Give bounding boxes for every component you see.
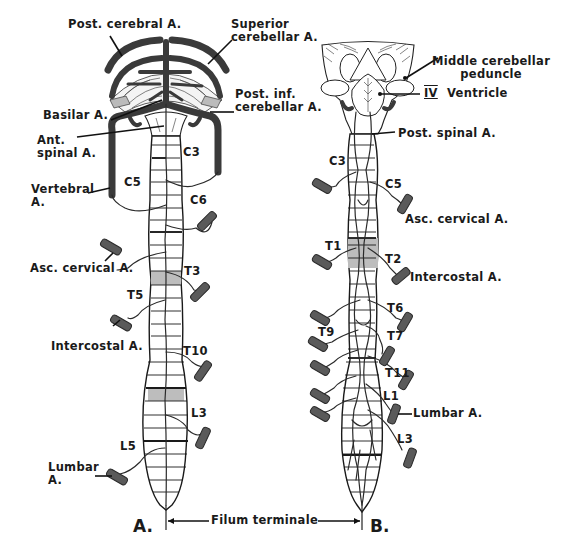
label-post-cerebral-artery: Post. cerebral A.	[68, 18, 181, 31]
label-ventricle: Ventricle	[447, 87, 508, 100]
segment-l3-b: L3	[397, 433, 413, 446]
segment-c3-b: C3	[329, 155, 346, 168]
label-filum-terminale: Filum terminale	[211, 514, 318, 527]
panel-label-b: B.	[370, 520, 389, 533]
label-asc-cervical-artery-a: Asc. cervical A.	[30, 262, 133, 275]
segment-t5-a: T5	[127, 289, 143, 302]
segment-c3-a: C3	[183, 146, 200, 159]
label-lumbar-artery-a: Lumbar A.	[48, 461, 99, 487]
segment-l1-b: L1	[383, 390, 399, 403]
segment-l3-a: L3	[191, 407, 207, 420]
label-superior-cerebellar-artery: Superior cerebellar A.	[231, 18, 318, 44]
label-vertebral-artery: Vertebral A.	[31, 183, 94, 209]
segment-t1-b: T1	[325, 240, 341, 253]
segment-t10-a: T10	[183, 345, 208, 358]
label-basilar-artery: Basilar A.	[43, 109, 108, 122]
segment-t6-b: T6	[387, 302, 403, 315]
label-asc-cervical-artery-b: Asc. cervical A.	[405, 213, 508, 226]
segment-t11-b: T11	[385, 367, 410, 380]
segment-c5-a: C5	[124, 176, 141, 189]
segment-t9-b: T9	[318, 326, 334, 339]
panel-b-drawing	[307, 42, 438, 531]
segment-t3-a: T3	[184, 265, 200, 278]
segment-t2-b: T2	[385, 253, 401, 266]
label-post-inf-cerebellar-artery: Post. inf. cerebellar A.	[235, 88, 322, 114]
segment-l5-a: L5	[120, 440, 136, 453]
segment-c6-a: C6	[190, 194, 207, 207]
segment-t7-b: T7	[387, 330, 403, 343]
label-intercostal-artery-a: Intercostal A.	[51, 340, 143, 353]
label-intercostal-artery-b: Intercostal A.	[410, 271, 502, 284]
label-post-spinal-artery: Post. spinal A.	[398, 127, 496, 140]
label-ant-spinal-artery: Ant. spinal A.	[37, 134, 96, 160]
panel-label-a: A.	[133, 520, 153, 533]
label-middle-cerebellar-peduncle: Middle cerebellar peduncle	[432, 55, 550, 81]
segment-c5-b: C5	[385, 178, 402, 191]
label-lumbar-artery-b: Lumbar A.	[413, 407, 482, 420]
label-roman-iv: IV	[424, 87, 438, 100]
